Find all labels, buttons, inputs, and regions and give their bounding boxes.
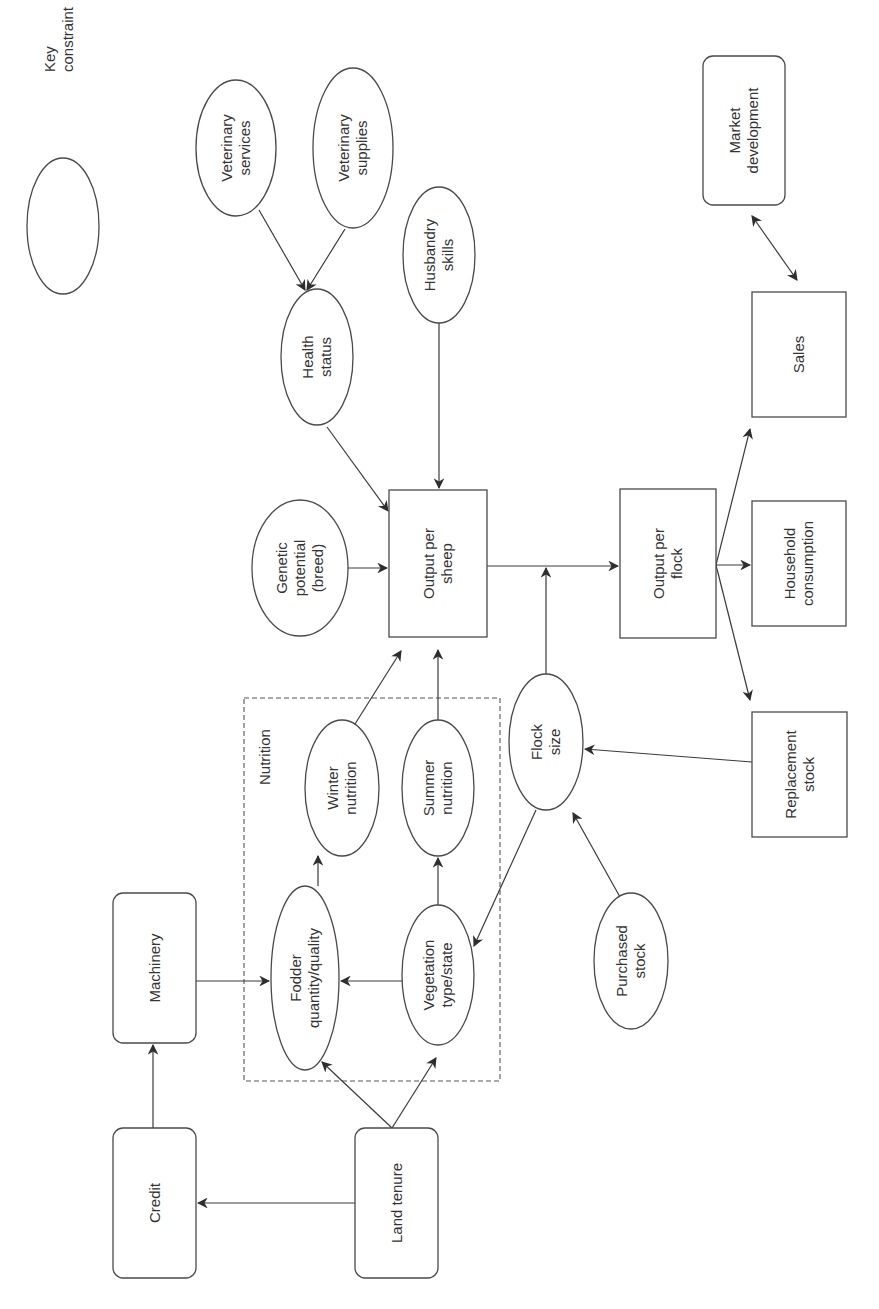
node-vegetation: Vegetationtype/state <box>402 905 474 1045</box>
node-veterinary-supplies: Veterinarysupplies <box>313 68 393 228</box>
node-winter-nutrition: Winternutrition <box>305 720 379 856</box>
edge-outputflock-sales <box>716 429 750 565</box>
node-health-status-label: Healthstatus <box>299 335 334 378</box>
edge-health-outputsheep <box>327 427 388 511</box>
edge-sales-marketdevelopment <box>752 216 797 280</box>
node-flock-size: Flocksize <box>509 674 583 810</box>
node-flock-size-label: Flocksize <box>528 724 563 760</box>
edge-flocksize-vegetation <box>474 810 536 946</box>
node-genetic-potential-label: Geneticpotential(breed) <box>273 540 326 597</box>
node-genetic-potential: Geneticpotential(breed) <box>252 500 348 636</box>
node-veterinary-services-label: Veterinaryservices <box>218 114 253 182</box>
node-winter-nutrition-label: Winternutrition <box>324 761 359 814</box>
node-husbandry-skills: Husbandryskills <box>403 187 475 323</box>
node-replacement-stock: Replacementstock <box>752 712 847 837</box>
edge-landtenure-vegetation <box>392 1058 436 1128</box>
node-machinery: Machinery <box>113 893 196 1043</box>
node-sales-label: Sales <box>790 336 807 374</box>
node-purchased-stock: Purchasedstock <box>594 893 668 1029</box>
node-household-consumption-label: Householdconsumption <box>781 521 816 606</box>
edge-outputflock-replacement <box>716 565 750 700</box>
node-machinery-label: Machinery <box>146 933 163 1003</box>
node-market-development: Marketdevelopment <box>703 56 785 205</box>
edge-winter-outputsheep <box>355 651 401 724</box>
node-output-per-sheep: Output persheep <box>389 490 487 637</box>
node-household-consumption: Householdconsumption <box>752 501 846 626</box>
node-summer-nutrition: Summernutrition <box>402 720 474 856</box>
edge-purchased-flocksize <box>573 813 620 897</box>
node-fodder: Fodderquantity/quality <box>271 886 339 1070</box>
node-credit: Credit <box>113 1128 196 1278</box>
edge-vetsupplies-health <box>307 229 345 290</box>
edge-landtenure-fodder <box>322 1062 392 1128</box>
node-sales: Sales <box>752 292 846 417</box>
node-vegetation-label: Vegetationtype/state <box>420 940 455 1011</box>
node-health-status: Healthstatus <box>281 289 353 425</box>
edge-replacement-flocksize <box>585 749 752 762</box>
edge-vetservices-health <box>259 210 305 290</box>
legend-key-ellipse-icon <box>27 158 99 294</box>
nutrition-group-label: Nutrition <box>256 729 273 785</box>
node-credit-label: Credit <box>146 1182 163 1223</box>
edges <box>153 210 797 1203</box>
node-output-per-flock: Output perflock <box>620 489 716 638</box>
node-land-tenure-label: Land tenure <box>388 1163 405 1243</box>
node-veterinary-services: Veterinaryservices <box>196 80 276 216</box>
node-land-tenure: Land tenure <box>355 1128 438 1278</box>
legend: Key constraint <box>27 6 99 294</box>
node-veterinary-supplies-label: Veterinarysupplies <box>335 114 370 182</box>
legend-label: Key constraint <box>41 6 76 72</box>
nodes: CreditLand tenureMachineryFodderquantity… <box>113 56 847 1278</box>
sheep-production-constraints-diagram: Key constraint Nutrition Credit <box>0 0 879 1309</box>
node-summer-nutrition-label: Summernutrition <box>420 760 455 817</box>
